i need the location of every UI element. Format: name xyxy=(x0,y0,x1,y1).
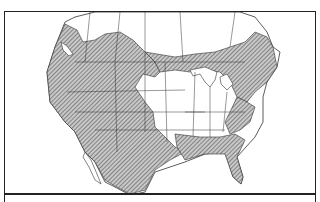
map-frame xyxy=(4,11,316,194)
shaded-region-gulf-florida xyxy=(175,134,245,184)
north-america-map xyxy=(5,12,316,194)
caption-box xyxy=(4,194,316,202)
map-caption xyxy=(5,195,315,197)
